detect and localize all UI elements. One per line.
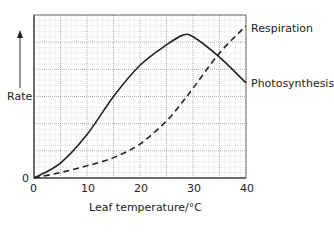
- x-axis-label: Leaf temperature/°C: [89, 201, 202, 214]
- legend-photosynthesis: Photosynthesis: [251, 77, 334, 90]
- x-tick-10: 10: [81, 182, 95, 195]
- legend-respiration: Respiration: [251, 22, 313, 35]
- x-tick-30: 30: [187, 182, 201, 195]
- arrow-up-icon: [17, 30, 23, 38]
- x-tick-20: 20: [134, 182, 148, 195]
- x-tick-0: 0: [30, 182, 37, 195]
- x-tick-40: 40: [240, 182, 254, 195]
- y-tick-zero: 0: [22, 172, 29, 185]
- y-axis-label: Rate: [7, 90, 32, 103]
